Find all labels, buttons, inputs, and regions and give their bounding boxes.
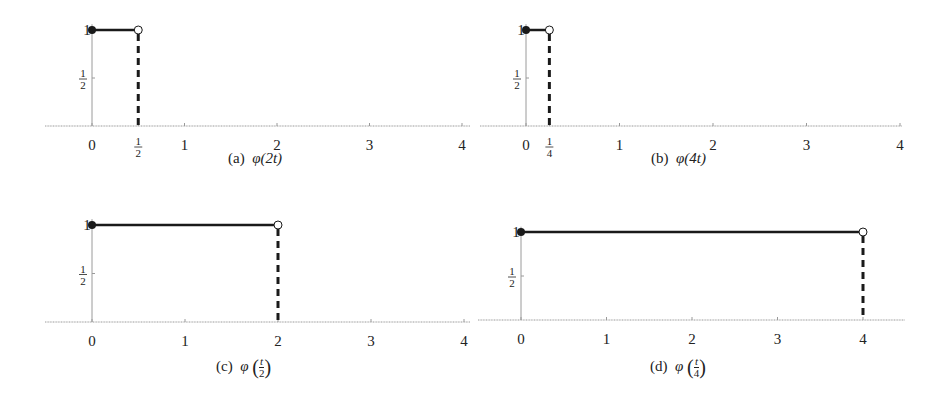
caption-label: (d) [650, 358, 668, 374]
caption-c: (c) φ (t2) [216, 356, 271, 379]
x-tick-label: 3 [774, 331, 782, 347]
caption-function: φ(4t) [676, 150, 706, 166]
svg-text:2: 2 [509, 277, 515, 289]
open-point [859, 228, 867, 236]
caption-function: φ [675, 358, 683, 374]
x-tick-label: 1 [603, 331, 611, 347]
x-tick-label: 4 [859, 331, 867, 347]
caption-a: (a) φ(2t) [228, 150, 282, 167]
caption-b: (b) φ(4t) [651, 150, 706, 167]
caption-d: (d) φ (t4) [650, 356, 706, 379]
svg-text:0: 0 [517, 331, 525, 347]
plot-canvas: 01234121 [0, 0, 951, 406]
caption-function: φ [240, 358, 248, 374]
x-tick-label: 2 [688, 331, 696, 347]
caption-function: φ(2t) [252, 150, 282, 166]
x-tick-label: 0 [517, 331, 525, 347]
y-tick-label: 12 [508, 265, 516, 289]
svg-text:2: 2 [688, 331, 696, 347]
svg-text:4: 4 [859, 331, 867, 347]
caption-label: (b) [651, 150, 669, 166]
svg-text:3: 3 [774, 331, 782, 347]
caption-label: (c) [216, 358, 233, 374]
svg-text:1: 1 [509, 265, 515, 277]
closed-point [517, 228, 525, 236]
caption-label: (a) [228, 150, 245, 166]
svg-text:1: 1 [603, 331, 611, 347]
